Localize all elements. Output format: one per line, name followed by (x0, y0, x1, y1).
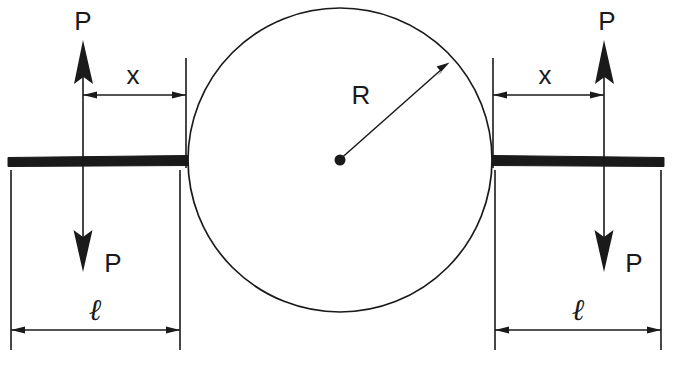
beam-right (492, 156, 664, 167)
dimension-x-left-label: x (127, 60, 140, 90)
dimension-x-right-label: x (539, 60, 552, 90)
radius-label: R (352, 80, 371, 110)
free-body-diagram: R P P x ℓ (0, 0, 675, 366)
force-label-bottom-right: P (625, 248, 642, 278)
dimension-l-left-label: ℓ (89, 293, 102, 326)
force-label-bottom-left: P (104, 248, 121, 278)
beam-left (8, 156, 188, 167)
force-label-top-right: P (598, 6, 615, 36)
diagram-canvas: R P P x ℓ (0, 0, 675, 366)
dimension-l-right-label: ℓ (572, 293, 585, 326)
force-label-top-left: P (74, 6, 91, 36)
